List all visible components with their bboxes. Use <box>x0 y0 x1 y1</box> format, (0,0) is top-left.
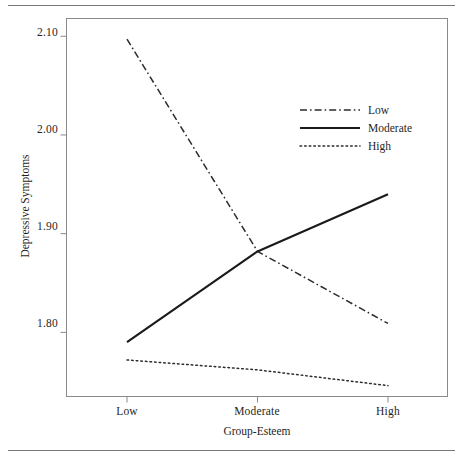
series-lines <box>127 39 388 385</box>
y-tick-label: 2.00 <box>14 123 58 135</box>
x-tick-label: Low <box>82 405 172 417</box>
legend-label-high: High <box>368 140 391 152</box>
x-tick-label: Moderate <box>212 405 302 417</box>
legend-label-low: Low <box>368 104 389 116</box>
legend-sample-lines <box>300 110 360 146</box>
y-tick-label: 2.10 <box>14 26 58 38</box>
plot-frame <box>67 19 448 397</box>
y-axis-label: Depressive Symptoms <box>19 136 31 276</box>
y-tick-label: 1.80 <box>14 317 58 329</box>
legend-label-moderate: Moderate <box>368 122 412 134</box>
series-line-moderate <box>127 194 388 342</box>
y-axis-ticks <box>61 36 67 332</box>
chart-canvas <box>0 0 463 460</box>
series-line-low <box>127 39 388 323</box>
figure-container: 2.10 2.00 1.90 1.80 Low Moderate High De… <box>0 0 463 460</box>
x-axis-label: Group-Esteem <box>66 425 448 437</box>
x-tick-label: High <box>343 405 433 417</box>
series-line-high <box>127 360 388 386</box>
x-axis-ticks <box>127 397 388 403</box>
line-chart <box>0 0 463 460</box>
